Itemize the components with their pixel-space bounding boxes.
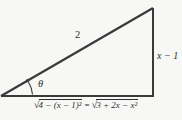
triangle-hypotenuse (1, 8, 153, 96)
radical-rhs: √3 + 2x − x² (92, 99, 139, 110)
radicand-rhs: 3 + 2x − x² (96, 99, 138, 110)
radicand-lhs: 4 − (x − 1)² (39, 99, 83, 110)
hypotenuse-label: 2 (75, 30, 80, 41)
angle-theta-label: θ (38, 79, 43, 90)
angle-arc (28, 82, 32, 95)
right-triangle-figure: 2 x − 1 θ √4 − (x − 1)²=√3 + 2x − x² (0, 0, 182, 120)
equals-sign: = (84, 100, 89, 110)
vertical-side-label: x − 1 (157, 51, 178, 61)
radical-lhs: √4 − (x − 1)² (34, 99, 83, 110)
base-side-equation: √4 − (x − 1)²=√3 + 2x − x² (0, 99, 172, 110)
